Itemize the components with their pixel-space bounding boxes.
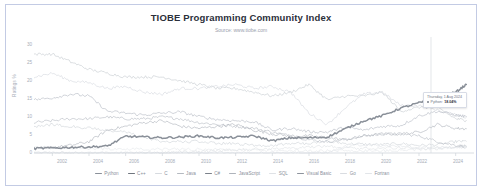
x-axis-tick: 2008 [157,159,183,164]
legend-item[interactable]: C# [205,171,220,176]
legend-item[interactable]: Fortran [365,171,389,176]
series-line-c- [34,94,466,134]
legend-item-label: C++ [137,171,146,176]
legend-item-label: SQL [279,171,288,176]
tooltip-date: Thursday, 1 Aug 2024 [427,95,463,100]
legend-item-label: Fortran [374,171,389,176]
legend-item-label: C# [214,171,220,176]
legend-item-label: Visual Basic [306,171,331,176]
y-axis-tick: 30 [16,42,32,47]
chart-card: TIOBE Programming Community Index Source… [5,4,477,186]
x-axis-tick: 2024 [445,159,471,164]
legend-item-label: Java [186,171,196,176]
series-line-visual-basic [34,116,466,147]
legend-swatch-icon [229,173,236,175]
legend-item[interactable]: SQL [269,171,288,176]
x-axis-tick: 2004 [85,159,111,164]
x-axis-tick: 2016 [301,159,327,164]
chart-source-caption: Source: www.tiobe.com [6,27,476,33]
x-axis-tick: 2012 [229,159,255,164]
legend-item-label: Go [350,171,356,176]
tooltip-series-name: Python: [431,100,443,104]
plot-area: Ratings % 30 25 20 15 10 5 0 2002 2004 2… [6,35,478,157]
page-title: TIOBE Programming Community Index [6,12,476,23]
legend-item-label: Python [104,171,118,176]
legend-swatch-icon [365,173,372,175]
chart-tooltip: Thursday, 1 Aug 2024 Python: 18.04% [423,92,467,108]
legend-swatch-icon [297,173,304,175]
legend-item[interactable]: Go [340,171,356,176]
x-axis-tick: 2018 [337,159,363,164]
x-axis-tick: 2020 [373,159,399,164]
tooltip-series-value: 18.04% [444,100,456,104]
legend-item-label: C [164,171,167,176]
line-chart-canvas [34,35,474,157]
y-axis-tick: 0 [16,150,32,155]
legend-swatch-icon [269,173,276,175]
legend-item-label: JavaScript [239,171,260,176]
legend-swatch-icon [128,173,135,175]
x-axis-tick: 2010 [193,159,219,164]
legend-item[interactable]: Java [177,171,196,176]
legend-swatch-icon [205,173,212,175]
legend-item[interactable]: JavaScript [229,171,260,176]
legend-item[interactable]: C++ [128,171,146,176]
y-axis-tick: 25 [16,60,32,65]
tooltip-series-dot-icon [427,101,429,103]
legend-swatch-icon [340,173,347,175]
series-line-java [34,53,466,122]
series-line-python [34,84,466,149]
series-line-c [34,72,466,125]
y-axis-tick: 10 [16,114,32,119]
tooltip-series-row: Python: 18.04% [427,100,463,104]
x-axis-tick-marks [52,153,455,156]
legend-item[interactable]: Visual Basic [297,171,331,176]
y-axis-tick: 20 [16,78,32,83]
legend-item[interactable]: C [155,171,168,176]
x-axis-tick: 2022 [409,159,435,164]
x-axis-tick: 2002 [49,159,75,164]
legend-swatch-icon [155,173,162,175]
legend-item[interactable]: Python [95,171,119,176]
chart-legend[interactable]: PythonC++CJavaC#JavaScriptSQLVisual Basi… [6,171,478,176]
series-layer [34,53,466,153]
x-axis-tick: 2014 [265,159,291,164]
legend-swatch-icon [177,173,184,175]
x-axis-tick: 2006 [121,159,147,164]
y-axis-tick: 15 [16,96,32,101]
y-axis-tick: 5 [16,132,32,137]
legend-swatch-icon [95,173,102,175]
